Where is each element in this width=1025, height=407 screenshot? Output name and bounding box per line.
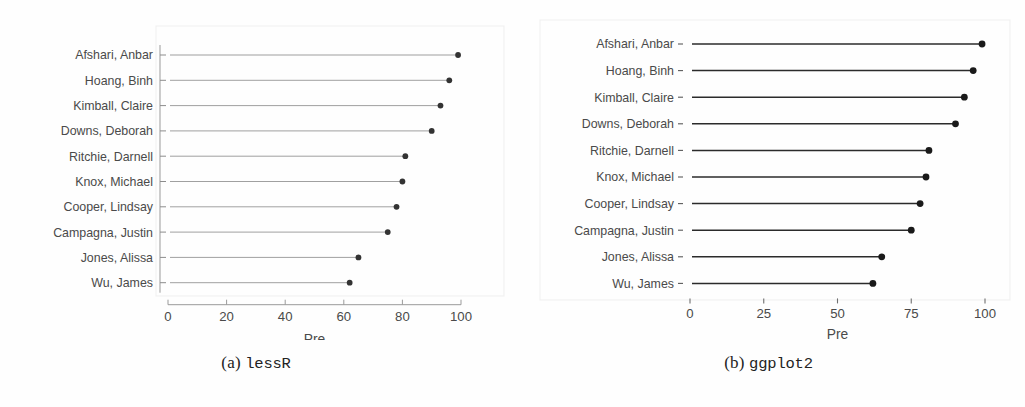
value-dot [961,94,968,101]
category-label: Jones, Alissa [81,251,153,265]
x-tick-label: 25 [756,306,771,321]
caption-lessr: (a) lessR [0,353,512,373]
value-dot [952,120,959,127]
figure-root: Afshari, AnbarHoang, BinhKimball, Claire… [0,0,1025,407]
value-dot [446,77,452,83]
lollipop-row: Cooper, Lindsay [63,200,399,214]
caption-ggplot2: (b) ggplot2 [512,353,1025,373]
lollipop-row: Ritchie, Darnell [69,150,408,164]
x-axis-title: Pre [827,327,849,340]
x-tick-label: 0 [686,306,693,321]
x-tick-label: 100 [974,306,996,321]
value-dot [870,280,877,287]
x-tick-label: 75 [904,306,919,321]
value-dot [402,153,408,159]
value-dot [923,174,930,181]
x-tick-label: 50 [830,306,845,321]
lollipop-row: Wu, James [612,277,876,291]
lollipop-row: Hoang, Binh [85,74,452,88]
lollipop-row: Knox, Michael [596,170,929,184]
category-label: Wu, James [91,276,153,290]
lollipop-row: Downs, Deborah [582,117,959,131]
x-tick-label: 0 [164,309,171,324]
value-dot [908,227,915,234]
lollipop-row: Kimball, Claire [594,91,968,105]
value-dot [438,103,444,109]
ggplot2-plot: Afshari, AnbarHoang, BinhKimball, Claire… [512,0,1025,340]
value-dot [400,179,406,185]
category-label: Downs, Deborah [582,117,674,131]
x-tick-label: 40 [278,309,293,324]
caption-prefix-a: (a) [221,353,240,372]
caption-name-b: ggplot2 [749,355,813,373]
lollipop-row: Campagna, Justin [53,226,391,240]
lollipop-row: Afshari, Anbar [75,48,461,62]
lessr-plot: Afshari, AnbarHoang, BinhKimball, Claire… [0,0,512,340]
value-dot [878,253,885,260]
value-dot [970,67,977,74]
x-tick-label: 80 [395,309,410,324]
lollipop-row: Ritchie, Darnell [590,144,932,158]
caption-prefix-b: (b) [724,353,744,372]
lollipop-row: Downs, Deborah [61,124,435,138]
value-dot [356,255,362,261]
category-label: Kimball, Claire [73,99,153,113]
value-dot [394,204,400,210]
category-label: Campagna, Justin [53,226,153,240]
value-dot [917,200,924,207]
category-label: Kimball, Claire [594,91,674,105]
category-label: Jones, Alissa [602,250,674,264]
value-dot [347,280,353,286]
lollipop-row: Jones, Alissa [81,251,362,265]
category-label: Hoang, Binh [85,74,153,88]
category-label: Cooper, Lindsay [584,197,674,211]
category-label: Wu, James [612,277,674,291]
category-label: Cooper, Lindsay [63,200,153,214]
category-label: Ritchie, Darnell [590,144,674,158]
x-axis-title: Pre [304,332,326,340]
x-tick-label: 60 [336,309,351,324]
lollipop-row: Afshari, Anbar [596,37,985,51]
lollipop-row: Knox, Michael [75,175,405,189]
value-dot [979,41,986,48]
panel-ggplot2: Afshari, AnbarHoang, BinhKimball, Claire… [512,0,1025,407]
category-label: Downs, Deborah [61,124,153,138]
x-tick-label: 20 [219,309,234,324]
category-label: Afshari, Anbar [596,37,674,51]
lollipop-row: Hoang, Binh [606,64,977,78]
lollipop-row: Wu, James [91,276,352,290]
lollipop-row: Kimball, Claire [73,99,443,113]
panel-lessr: Afshari, AnbarHoang, BinhKimball, Claire… [0,0,512,407]
category-label: Knox, Michael [596,170,674,184]
category-label: Afshari, Anbar [75,48,153,62]
category-label: Hoang, Binh [606,64,674,78]
value-dot [926,147,933,154]
plot-frame [156,26,504,296]
lollipop-row: Cooper, Lindsay [584,197,923,211]
lollipop-row: Campagna, Justin [574,224,915,238]
x-tick-label: 100 [450,309,472,324]
value-dot [385,229,391,235]
caption-name-a: lessR [245,355,291,373]
value-dot [429,128,435,134]
value-dot [455,52,461,58]
lollipop-row: Jones, Alissa [602,250,885,264]
category-label: Ritchie, Darnell [69,150,153,164]
category-label: Campagna, Justin [574,224,674,238]
category-label: Knox, Michael [75,175,153,189]
